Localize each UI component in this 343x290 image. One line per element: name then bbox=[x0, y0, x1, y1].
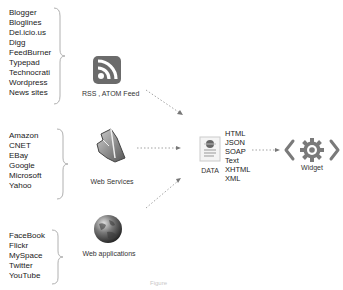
document-icon bbox=[199, 136, 221, 162]
arrow-rss-to-data bbox=[146, 90, 180, 113]
gear-code-icon bbox=[284, 137, 340, 163]
list-item: JSON bbox=[225, 138, 250, 147]
list-item: HTML bbox=[225, 129, 250, 138]
list-item: Text bbox=[225, 156, 250, 165]
list-item: XML bbox=[225, 174, 250, 183]
data-formats-list: HTML JSON SOAP Text XHTML XML bbox=[225, 129, 250, 183]
widget-label: Widget bbox=[296, 164, 328, 171]
figure-caption: Figure bbox=[150, 280, 167, 286]
data-label: DATA bbox=[194, 167, 226, 174]
arrow-apps-to-data bbox=[146, 181, 178, 208]
list-item: XHTML bbox=[225, 165, 250, 174]
list-item: SOAP bbox=[225, 147, 250, 156]
